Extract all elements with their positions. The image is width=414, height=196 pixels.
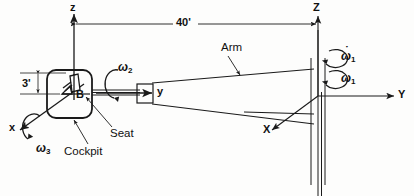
centrifuge-diagram-svg: [0, 0, 414, 196]
omega1-label: ω1: [341, 72, 355, 86]
overdot-icon: ˙: [344, 45, 348, 56]
axis-label-Z-global: Z: [313, 2, 320, 13]
callout-label-seat: Seat: [110, 128, 134, 140]
callout-leader-cockpit: [74, 120, 88, 144]
callout-label-arm: Arm: [221, 42, 242, 54]
callout-leader-arm: [228, 56, 240, 75]
omega3-symbol: ω: [36, 141, 46, 155]
axis-label-Y-global: Y: [398, 89, 405, 100]
omega1-dot-label: ˙ω1: [341, 50, 355, 64]
axis-label-y-local: y: [157, 86, 163, 97]
omega2-subscript: 2: [128, 66, 132, 75]
callout-leader-seat: [86, 97, 112, 127]
figure-canvas: z y x Z Y X ˙ω1 ω1 ω2 ω3 40' 3' B Arm Se…: [0, 0, 414, 196]
dimension-label-40ft: 40': [176, 17, 191, 28]
point-label-B: B: [76, 89, 84, 100]
omega1-dot-subscript: 1: [351, 55, 355, 64]
axis-label-X-global: X: [263, 124, 270, 135]
axis-label-x-local: x: [9, 122, 15, 133]
omega2-symbol: ω: [118, 60, 128, 74]
dimension-label-3ft: 3': [22, 78, 31, 89]
omega3-subscript: 3: [46, 147, 50, 156]
omega2-label: ω2: [118, 61, 132, 75]
omega1-dot-symbol: ˙ω: [341, 50, 351, 62]
callout-label-cockpit: Cockpit: [64, 146, 102, 158]
arm-structure: [152, 69, 314, 124]
omega1-symbol: ω: [341, 71, 351, 85]
omega1-subscript: 1: [351, 77, 355, 86]
axis-label-z-local: z: [70, 2, 76, 13]
omega3-label: ω3: [36, 142, 50, 156]
